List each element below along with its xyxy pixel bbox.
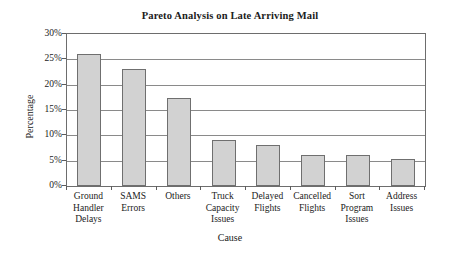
- x-tick-label-line: Address: [379, 191, 424, 203]
- x-tick-label: GroundHandlerDelays: [66, 191, 111, 226]
- x-tick-label-line: Delays: [66, 214, 111, 226]
- x-tick-label: SortProgramIssues: [335, 191, 380, 226]
- x-tick-label-line: Others: [156, 191, 201, 203]
- bar[interactable]: [346, 155, 370, 186]
- bar[interactable]: [122, 69, 146, 186]
- bar[interactable]: [167, 98, 191, 186]
- x-tickmark: [379, 186, 380, 190]
- bar-slot: [112, 34, 157, 186]
- y-tick-label: 15%: [18, 104, 62, 114]
- y-axis: Percentage 30%25%20%15%10%5%0%: [10, 33, 62, 185]
- x-tickmark: [245, 186, 246, 190]
- bar[interactable]: [256, 145, 280, 186]
- y-tick-label: 0%: [18, 180, 62, 190]
- x-tickmark: [156, 186, 157, 190]
- x-tick-label-line: Program: [335, 203, 380, 215]
- x-tickmark: [66, 186, 67, 190]
- x-tick-label-line: Capacity: [200, 203, 245, 215]
- bar-slot: [201, 34, 246, 186]
- y-tick-label: 30%: [18, 28, 62, 38]
- x-tick-label-line: Truck: [200, 191, 245, 203]
- bar[interactable]: [301, 155, 325, 186]
- bar[interactable]: [212, 140, 236, 186]
- x-tick-label-line: Handler: [66, 203, 111, 215]
- x-tick-label-line: Flights: [290, 203, 335, 215]
- x-axis-labels: GroundHandlerDelaysSAMSErrorsOthersTruck…: [66, 191, 424, 226]
- bar-slot: [157, 34, 202, 186]
- x-tick-label: SAMSErrors: [111, 191, 156, 226]
- x-tick-label: CancelledFlights: [290, 191, 335, 226]
- y-tick-label: 20%: [18, 79, 62, 89]
- x-tick-label-line: Cancelled: [290, 191, 335, 203]
- plot-area: [66, 33, 426, 187]
- y-tick-label: 10%: [18, 129, 62, 139]
- x-axis-title: Cause: [0, 232, 460, 243]
- bar-slot: [291, 34, 336, 186]
- bar-slot: [380, 34, 425, 186]
- x-tick-label: TruckCapacityIssues: [200, 191, 245, 226]
- pareto-chart: Pareto Analysis on Late Arriving Mail Pe…: [0, 0, 460, 257]
- bar-slot: [246, 34, 291, 186]
- x-tickmark: [111, 186, 112, 190]
- x-tick-label-line: Issues: [335, 214, 380, 226]
- x-tickmark: [200, 186, 201, 190]
- x-tick-label-line: SAMS: [111, 191, 156, 203]
- x-tick-label-line: Sort: [335, 191, 380, 203]
- y-tick-label: 25%: [18, 53, 62, 63]
- chart-title: Pareto Analysis on Late Arriving Mail: [0, 10, 460, 21]
- bar-slot: [67, 34, 112, 186]
- x-tick-label: DelayedFlights: [245, 191, 290, 226]
- bar-series: [67, 34, 425, 186]
- x-tick-label-line: Errors: [111, 203, 156, 215]
- bar-slot: [336, 34, 381, 186]
- x-tickmark: [424, 186, 425, 190]
- x-tick-label-line: Issues: [379, 203, 424, 215]
- x-tick-label-line: Flights: [245, 203, 290, 215]
- x-tick-label-line: Delayed: [245, 191, 290, 203]
- bar[interactable]: [77, 54, 101, 186]
- y-tick-label: 5%: [18, 155, 62, 165]
- x-tick-label: Others: [156, 191, 201, 226]
- x-tick-label-line: Issues: [200, 214, 245, 226]
- x-tickmark: [335, 186, 336, 190]
- x-tickmark: [290, 186, 291, 190]
- bar[interactable]: [391, 159, 415, 186]
- x-tick-label: AddressIssues: [379, 191, 424, 226]
- x-tick-label-line: Ground: [66, 191, 111, 203]
